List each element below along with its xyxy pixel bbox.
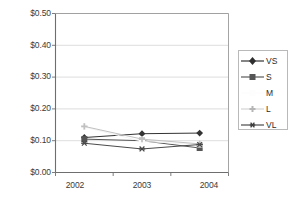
legend-key-asterisk-icon <box>239 117 266 133</box>
legend-item-m[interactable]: M <box>239 85 289 101</box>
legend-key-diamond-icon <box>239 53 266 69</box>
legend-key-blank-icon <box>239 85 266 101</box>
line-chart: $0.50 $0.40 $0.30 $0.20 $0.10 $0.00 2002… <box>0 0 299 203</box>
legend: VS S M <box>238 50 288 130</box>
legend-label: M <box>266 89 273 98</box>
legend-key-cross-icon <box>239 101 266 117</box>
legend-key-square-icon <box>239 69 266 85</box>
legend-label: L <box>266 105 271 114</box>
legend-item-vl[interactable]: VL <box>239 117 289 133</box>
legend-label: S <box>266 73 272 82</box>
gridlines <box>56 14 229 141</box>
legend-label: VL <box>266 121 276 130</box>
legend-label: VS <box>266 57 277 66</box>
legend-item-s[interactable]: S <box>239 69 289 85</box>
legend-item-vs[interactable]: VS <box>239 53 289 69</box>
legend-item-l[interactable]: L <box>239 101 289 117</box>
